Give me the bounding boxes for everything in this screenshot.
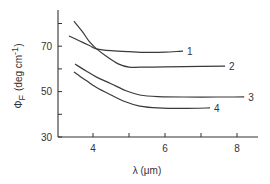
- x-axis-title: λ (μm): [133, 165, 162, 176]
- curve-2: [74, 21, 225, 67]
- axes: 305070468: [41, 10, 258, 154]
- x-tick-label: 4: [90, 143, 96, 154]
- labels: 1234: [187, 46, 254, 114]
- y-tick-label: 50: [41, 86, 53, 97]
- y-axis-exponent: -1: [10, 47, 20, 55]
- x-tick-label: 8: [234, 143, 240, 154]
- x-axis-label: λ (μm): [133, 165, 162, 176]
- curve-3: [75, 64, 244, 97]
- y-axis-close: ): [13, 44, 24, 47]
- curve-label-2: 2: [229, 61, 235, 72]
- curve-4: [74, 72, 210, 108]
- y-tick-label: 30: [41, 132, 53, 143]
- curve-label-3: 3: [248, 92, 254, 103]
- y-tick-label: 70: [41, 41, 53, 52]
- curve-label-4: 4: [214, 103, 220, 114]
- svg-text:ΦF(deg cm-1): ΦF(deg cm-1): [10, 44, 27, 109]
- y-axis-units: (deg cm: [13, 55, 24, 91]
- y-axis-symbol: Φ: [13, 100, 24, 108]
- y-axis-label: ΦF(deg cm-1): [10, 44, 27, 109]
- curve-1: [69, 36, 183, 52]
- y-axis-subscript: F: [17, 95, 27, 101]
- x-tick-label: 6: [162, 143, 168, 154]
- curves: [69, 21, 244, 108]
- curve-label-1: 1: [187, 46, 193, 57]
- chart: 305070468 1234 λ (μm) ΦF(deg cm-1): [0, 0, 270, 184]
